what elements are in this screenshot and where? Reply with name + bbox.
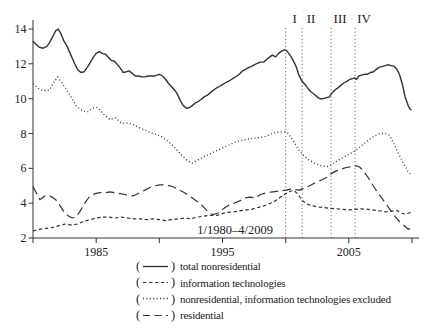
legend-label: nonresidential, information technologies… xyxy=(180,293,391,305)
paren-open: ( xyxy=(136,260,140,273)
axes xyxy=(29,20,420,243)
paren-open: ( xyxy=(136,293,140,306)
period-label-I: I xyxy=(293,11,297,26)
investment-line-chart-figure: 24681012141985199520051/1980–4/2009IIIII… xyxy=(0,0,428,331)
y-tick-label: 12 xyxy=(15,57,27,71)
chart-legend: ( ) total nonresidential ( ) information… xyxy=(136,258,391,324)
y-tick-label: 8 xyxy=(21,127,27,141)
series-total-nonresidential xyxy=(33,29,411,110)
x-tick-label: 1995 xyxy=(211,245,235,257)
paren-close: ) xyxy=(171,260,175,273)
legend-line-sample-solid xyxy=(141,261,170,272)
legend-item-nonresidential-it-excluded: ( ) nonresidential, information technolo… xyxy=(136,291,391,307)
y-tick-label: 6 xyxy=(21,161,27,175)
paren-open: ( xyxy=(136,309,140,322)
period-label-II: II xyxy=(307,11,316,26)
y-tick-label: 14 xyxy=(15,22,27,36)
y-tick-label: 10 xyxy=(15,92,27,106)
x-tick-label: 2005 xyxy=(337,245,361,257)
y-tick-label: 4 xyxy=(21,196,27,210)
paren-close: ) xyxy=(171,276,175,289)
period-label-IV: IV xyxy=(357,11,371,26)
legend-item-residential: ( ) residential xyxy=(136,307,391,323)
paren-open: ( xyxy=(136,276,140,289)
legend-item-information-technologies: ( ) information technologies xyxy=(136,274,391,290)
paren-close: ) xyxy=(171,309,175,322)
chart-canvas: 24681012141985199520051/1980–4/2009IIIII… xyxy=(0,0,428,256)
period-label-III: III xyxy=(334,11,347,26)
legend-line-sample-dotted xyxy=(141,293,170,304)
paren-close: ) xyxy=(171,293,175,306)
legend-line-sample-long-dash xyxy=(141,310,170,321)
legend-label: information technologies xyxy=(180,277,285,289)
legend-line-sample-short-dash xyxy=(141,277,170,288)
legend-label: total nonresidential xyxy=(180,260,261,272)
y-tick-label: 2 xyxy=(21,231,27,245)
x-tick-label: 1985 xyxy=(84,245,108,257)
legend-item-total-nonresidential: ( ) total nonresidential xyxy=(136,258,391,274)
legend-label: residential xyxy=(180,309,224,321)
date-range-caption: 1/1980–4/2009 xyxy=(197,223,273,237)
